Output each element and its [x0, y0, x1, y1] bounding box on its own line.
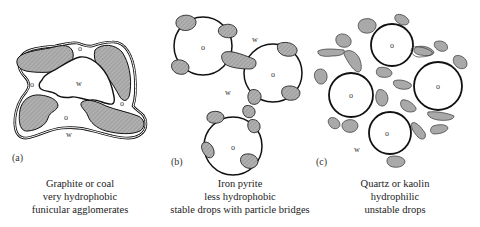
oil-label: o — [78, 44, 82, 53]
particle — [328, 117, 340, 128]
particle — [431, 125, 449, 134]
oil-label: o — [201, 43, 205, 52]
panel-a-caption: Graphite or coal very hydrophobic funicu… — [0, 177, 160, 216]
caption-line: hydrophilic — [330, 190, 460, 203]
particle — [376, 67, 392, 77]
particle — [318, 49, 344, 56]
oil-label: o — [349, 91, 353, 100]
caption-line: very hydrophobic — [0, 190, 160, 203]
caption-line: Iron pyrite — [155, 177, 325, 190]
caption-line: Quartz or kaolin — [330, 177, 460, 190]
oil-label: o — [64, 113, 68, 122]
particle — [401, 100, 417, 112]
particle — [434, 41, 447, 51]
oil-label: o — [120, 99, 124, 108]
caption-line: unstable drops — [330, 203, 460, 216]
oil-drop — [369, 112, 411, 154]
oil-label: o — [436, 82, 440, 91]
caption-line: less hydrophobic — [155, 190, 325, 203]
caption-line: Graphite or coal — [0, 177, 160, 190]
particle — [172, 60, 189, 75]
water-label: w — [66, 130, 72, 139]
panel-b-label: (b) — [171, 156, 183, 167]
particle — [358, 19, 376, 34]
particle — [393, 80, 411, 89]
particle — [314, 69, 327, 84]
particle — [248, 119, 260, 132]
panel-b-caption: Iron pyrite less hydrophobic stable drop… — [155, 177, 325, 216]
oil-label: o — [385, 129, 389, 138]
oil-label: o — [271, 70, 275, 79]
panel-c-figure: o o o o w — [314, 14, 467, 167]
particle — [207, 111, 224, 123]
oil-label: o — [30, 80, 34, 89]
caption-line: stable drops with particle bridges — [155, 203, 325, 216]
particle — [453, 55, 467, 68]
water-label: w — [76, 79, 82, 88]
particle — [387, 156, 405, 167]
panel-a-label: (a) — [12, 152, 23, 163]
panel-b-figure: o o o w w — [172, 15, 302, 175]
water-label: w — [225, 88, 231, 97]
panel-c-label: (c) — [316, 156, 327, 167]
particle — [218, 24, 237, 38]
particle — [376, 89, 388, 106]
oil-label: o — [390, 41, 394, 50]
particle — [336, 34, 351, 47]
particle — [344, 51, 361, 72]
particle — [243, 105, 255, 117]
water-label: w — [354, 145, 360, 154]
particle — [176, 15, 196, 30]
panel-c-caption: Quartz or kaolin hydrophilic unstable dr… — [330, 177, 460, 216]
particle — [411, 123, 425, 139]
particle — [428, 112, 454, 121]
particle — [342, 120, 358, 133]
oil-label: o — [231, 143, 235, 152]
particle — [282, 86, 300, 100]
particle — [395, 14, 409, 25]
panel-a-figure: o o w o o w — [15, 42, 146, 139]
caption-line: funicular agglomerates — [0, 203, 160, 216]
particle — [248, 89, 261, 104]
water-label: w — [252, 35, 258, 44]
